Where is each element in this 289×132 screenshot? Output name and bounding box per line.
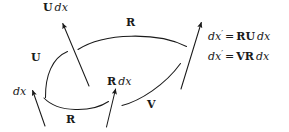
node-label-r-dx-bold: R (107, 75, 116, 88)
node-label-u-dx-italic: dx (55, 1, 68, 14)
equation-ru-operator: = (225, 30, 234, 43)
equation-ru-lhs-base: dx (208, 30, 221, 43)
curve-r-bottom (44, 98, 109, 110)
arrow-dx-prime (181, 23, 201, 90)
arrow-r-dx (107, 89, 116, 127)
equation-vr-operator: = (225, 50, 234, 63)
diagram-canvas (0, 0, 289, 132)
equation-ru: dx′=RUdx (208, 29, 270, 42)
node-label-u-dx-bold: U (43, 1, 53, 14)
edge-label-v: V (147, 99, 156, 110)
equation-vr-rhs-bold: VR (236, 50, 254, 63)
edge-label-r-top: R (126, 17, 135, 28)
polar-decomposition-diagram: dx Udx Rdx U R R V dx′=RUdx dx′=VRdx (0, 0, 289, 132)
edge-label-u: U (31, 52, 41, 63)
curve-u (45, 52, 67, 98)
node-label-source: dx (13, 86, 26, 97)
equation-vr-lhs-prime: ′ (221, 48, 223, 57)
arrow-u-dx (63, 24, 89, 87)
node-label-r-dx: Rdx (107, 76, 131, 87)
equation-vr: dx′=VRdx (208, 49, 269, 62)
node-label-u-dx: Udx (43, 2, 68, 13)
equation-ru-rhs-bold: RU (236, 30, 255, 43)
edge-label-r-bottom: R (66, 114, 75, 125)
arrow-dx (33, 91, 45, 127)
equation-ru-lhs-prime: ′ (221, 28, 223, 37)
equation-vr-rhs-italic: dx (256, 50, 269, 63)
node-label-r-dx-italic: dx (118, 75, 131, 88)
equation-vr-lhs-base: dx (208, 50, 221, 63)
equation-ru-rhs-italic: dx (257, 30, 270, 43)
curve-r-top (78, 36, 187, 49)
